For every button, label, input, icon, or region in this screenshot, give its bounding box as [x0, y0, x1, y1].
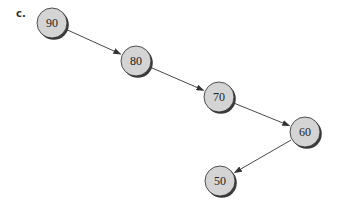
edges-layer	[67, 30, 292, 173]
node-value: 60	[299, 125, 311, 139]
edge-70-to-60	[234, 103, 289, 126]
node-value: 70	[213, 90, 225, 104]
edge-90-to-80	[67, 30, 121, 54]
edge-80-to-70	[151, 67, 204, 90]
tree-diagram: 9080706050	[0, 0, 340, 212]
node-value: 90	[46, 16, 58, 30]
node-value: 50	[214, 174, 226, 188]
tree-node-70: 70	[204, 82, 236, 114]
tree-node-90: 90	[37, 8, 69, 40]
node-value: 80	[130, 54, 142, 68]
tree-node-50: 50	[205, 166, 237, 198]
tree-node-60: 60	[290, 117, 322, 149]
tree-node-80: 80	[121, 46, 153, 78]
nodes-layer: 9080706050	[37, 8, 322, 198]
edge-60-to-50	[235, 140, 291, 173]
